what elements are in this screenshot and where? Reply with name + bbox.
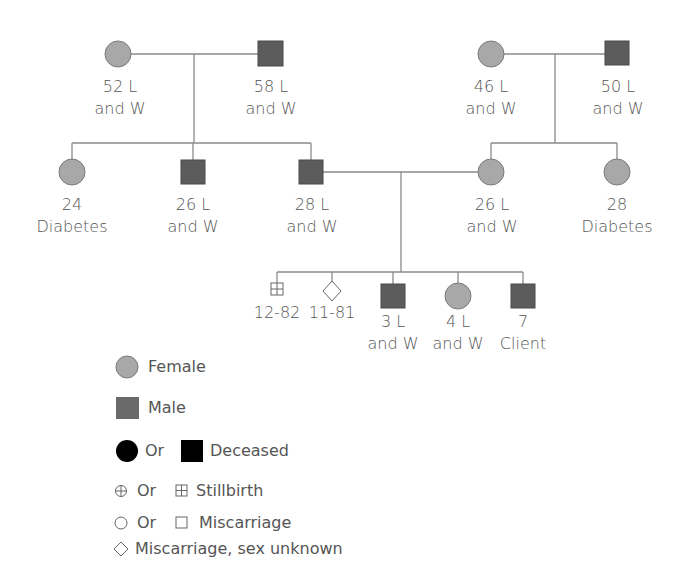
legend-stillbirth-circle-icon [116, 486, 127, 497]
status-text: and W [592, 98, 643, 120]
male-symbol-brother [381, 284, 405, 308]
legend-female-icon [116, 356, 138, 378]
label-mother: 26 L and W [466, 194, 517, 238]
date-text: 12-82 [254, 302, 301, 324]
legend-miscarriage-circle-icon [115, 517, 127, 529]
legend-deceased-label: Deceased [210, 441, 289, 461]
label-brother: 3 L and W [367, 311, 418, 355]
legend-or-label: Or [137, 481, 156, 501]
label-maternal-grandmother: 46 L and W [465, 76, 516, 120]
status-text: and W [94, 98, 145, 120]
status-text: Client [500, 333, 546, 355]
legend-stillbirth-square-icon [176, 485, 187, 496]
legend-or-label: Or [137, 513, 156, 533]
age-text: 58 L [245, 76, 296, 98]
miscarriage-diamond-icon [323, 281, 341, 301]
female-symbol-sister [445, 283, 471, 309]
legend-stillbirth-label: Stillbirth [196, 481, 263, 501]
legend-male-label: Male [148, 398, 186, 418]
male-symbol-paternal-grandfather [258, 41, 283, 66]
legend-miscarriage-square-icon [176, 517, 187, 528]
status-text: and W [245, 98, 296, 120]
label-miscarriage: 11-81 [309, 302, 356, 324]
legend-male-icon [116, 397, 139, 419]
age-text: 3 L [367, 311, 418, 333]
age-text: 46 L [465, 76, 516, 98]
legend-miscarriage-label: Miscarriage [199, 513, 291, 533]
label-stillbirth: 12-82 [254, 302, 301, 324]
legend-or-label: Or [145, 441, 164, 461]
age-text: 26 L [466, 194, 517, 216]
female-symbol-maternal-grandmother [478, 41, 504, 67]
status-text: Diabetes [581, 216, 652, 238]
status-text: and W [466, 216, 517, 238]
legend-deceased-circle-icon [116, 440, 138, 462]
label-paternal-grandmother: 52 L and W [94, 76, 145, 120]
male-symbol-father [299, 160, 323, 184]
female-symbol-paternal-aunt [59, 159, 85, 185]
age-text: 28 L [286, 194, 337, 216]
connector-lines [72, 54, 617, 284]
label-maternal-grandfather: 50 L and W [592, 76, 643, 120]
label-paternal-aunt: 24 Diabetes [36, 194, 107, 238]
label-maternal-aunt: 28 Diabetes [581, 194, 652, 238]
age-text: 24 [36, 194, 107, 216]
label-father: 28 L and W [286, 194, 337, 238]
status-text: and W [465, 98, 516, 120]
male-symbol-client [511, 284, 535, 308]
label-paternal-grandfather: 58 L and W [245, 76, 296, 120]
age-text: 28 [581, 194, 652, 216]
female-symbol-maternal-aunt [604, 159, 630, 185]
date-text: 11-81 [309, 302, 356, 324]
female-symbol-paternal-grandmother [105, 41, 131, 67]
age-text: 26 L [167, 194, 218, 216]
female-symbol-mother [478, 159, 504, 185]
stillbirth-square-icon [271, 283, 283, 295]
status-text: and W [367, 333, 418, 355]
label-sister: 4 L and W [432, 311, 483, 355]
legend-miscarriage-unknown-icon [114, 542, 128, 556]
male-symbol-paternal-uncle [181, 160, 205, 184]
age-text: 4 L [432, 311, 483, 333]
legend-deceased-square-icon [181, 440, 203, 462]
age-text: 52 L [94, 76, 145, 98]
status-text: and W [286, 216, 337, 238]
male-symbol-maternal-grandfather [605, 41, 629, 65]
legend-female-label: Female [148, 357, 206, 377]
label-client: 7 Client [500, 311, 546, 355]
status-text: and W [432, 333, 483, 355]
legend-miscarriage-unknown-label: Miscarriage, sex unknown [135, 539, 343, 559]
label-paternal-uncle: 26 L and W [167, 194, 218, 238]
age-text: 50 L [592, 76, 643, 98]
age-text: 7 [500, 311, 546, 333]
status-text: and W [167, 216, 218, 238]
status-text: Diabetes [36, 216, 107, 238]
